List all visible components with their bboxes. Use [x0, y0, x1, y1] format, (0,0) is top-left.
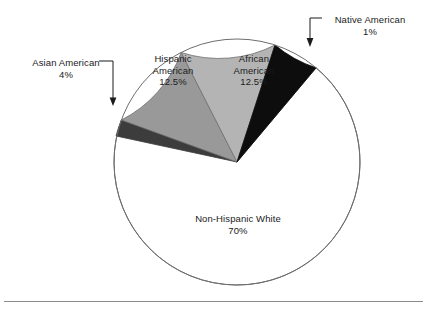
pie-chart-figure: Hispanic American 12.5% African American… [0, 0, 427, 315]
callout-label-native-american: Native American 1% [318, 14, 422, 37]
callout-label-asian-american: Asian American 4% [14, 57, 118, 80]
figure-footer-rule [4, 301, 423, 302]
slice-label-hispanic-american-value: 12.5% [137, 76, 209, 88]
slice-label-non-hispanic-white-value: 70% [168, 225, 308, 237]
slice-label-hispanic-american: Hispanic American 12.5% [137, 53, 209, 88]
pie-chart-graphic [0, 0, 427, 315]
slice-label-african-american-line1: African [216, 53, 292, 65]
callout-label-asian-american-value: 4% [14, 69, 118, 81]
callout-label-asian-american-line1: Asian American [14, 57, 118, 69]
callout-label-native-american-line1: Native American [318, 14, 422, 26]
slice-label-non-hispanic-white-line1: Non-Hispanic White [168, 213, 308, 225]
slice-label-african-american: African American 12.5% [216, 53, 292, 88]
slice-label-hispanic-american-line2: American [137, 65, 209, 77]
callout-label-native-american-value: 1% [318, 26, 422, 38]
slice-label-hispanic-american-line1: Hispanic [137, 53, 209, 65]
slice-label-african-american-value: 12.5% [216, 76, 292, 88]
slice-label-african-american-line2: American [216, 65, 292, 77]
slice-label-non-hispanic-white: Non-Hispanic White 70% [168, 213, 308, 236]
